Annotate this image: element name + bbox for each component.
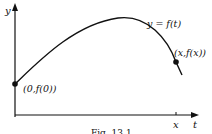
x-tick-label: x xyxy=(173,119,179,130)
x-axis xyxy=(15,112,199,118)
start-point-label: (0,f(0)) xyxy=(23,83,57,94)
point-start xyxy=(12,81,18,87)
x-axis-arrow-icon xyxy=(191,112,199,118)
y-axis xyxy=(12,3,18,117)
y-axis-label: y xyxy=(4,5,11,16)
figure-caption: Fig. 13.1 xyxy=(91,128,132,134)
x-axis-label: t xyxy=(193,119,198,130)
end-point-label: (x,f(x)) xyxy=(174,47,206,58)
point-end xyxy=(173,59,179,65)
diagram-canvas: y t x y = f(t) (0,f(0)) (x,f(x)) Fig. 13… xyxy=(0,0,212,134)
curve-label: y = f(t) xyxy=(146,18,181,29)
y-axis-arrow-icon xyxy=(12,3,18,11)
